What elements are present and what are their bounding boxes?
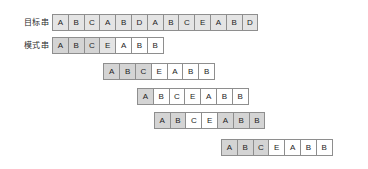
cell: E — [151, 63, 168, 80]
cell: A — [217, 112, 234, 129]
cell: B — [216, 88, 233, 105]
cell: E — [201, 112, 218, 129]
cell: A — [200, 88, 217, 105]
cell: A — [221, 139, 238, 156]
cell: D — [131, 14, 148, 31]
string-matching-diagram: 目标串ABCABDABCEABD模式串ABCEABBABCEABBABCEABB… — [0, 0, 368, 169]
cell: B — [119, 63, 136, 80]
cell: B — [131, 37, 148, 54]
cell: C — [253, 139, 270, 156]
cell: B — [233, 112, 250, 129]
cell: A — [99, 14, 116, 31]
cell: B — [147, 37, 164, 54]
cell: B — [68, 14, 85, 31]
cell: A — [154, 112, 171, 129]
cell: B — [182, 63, 199, 80]
cell: A — [147, 14, 164, 31]
cell: B — [68, 37, 85, 54]
cell: B — [198, 63, 215, 80]
pattern-row-3: ABCEABB — [137, 88, 249, 105]
pattern-row-5: ABCEABB — [221, 139, 333, 156]
cell: B — [226, 14, 243, 31]
pattern-row-4: ABCEABB — [154, 112, 266, 129]
cell: B — [249, 112, 266, 129]
pattern-row-1-label: 模式串 — [24, 41, 50, 51]
pattern-row-1: 模式串ABCEABB — [53, 37, 164, 54]
cell: B — [316, 139, 333, 156]
cell: A — [103, 63, 120, 80]
cell: A — [52, 14, 69, 31]
pattern-row-2: ABCEABB — [103, 63, 215, 80]
cell: B — [237, 139, 254, 156]
cell: B — [300, 139, 317, 156]
cell: A — [210, 14, 227, 31]
cell: C — [84, 14, 101, 31]
cell: A — [137, 88, 154, 105]
cell: B — [163, 14, 180, 31]
cell: B — [232, 88, 249, 105]
cell: C — [185, 112, 202, 129]
target-string-row: 目标串ABCABDABCEABD — [53, 14, 258, 31]
cell: B — [153, 88, 170, 105]
cell: C — [169, 88, 186, 105]
cell: C — [178, 14, 195, 31]
cell: E — [184, 88, 201, 105]
cell: D — [242, 14, 259, 31]
cell: A — [52, 37, 69, 54]
cell: A — [115, 37, 132, 54]
cell: B — [170, 112, 187, 129]
cell: B — [115, 14, 132, 31]
cell: A — [284, 139, 301, 156]
cell: E — [99, 37, 116, 54]
cell: C — [135, 63, 152, 80]
cell: A — [167, 63, 184, 80]
cell: C — [84, 37, 101, 54]
target-string-row-label: 目标串 — [24, 18, 50, 28]
cell: E — [194, 14, 211, 31]
cell: E — [268, 139, 285, 156]
